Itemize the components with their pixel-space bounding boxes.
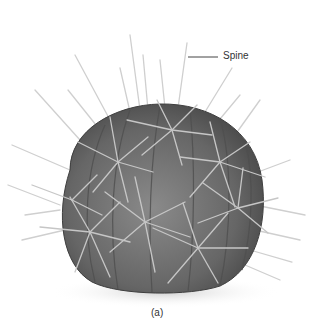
cactus-illustration [0, 0, 320, 325]
figure-caption: (a) [151, 307, 163, 318]
spine-label: Spine [223, 50, 249, 61]
cactus-body [62, 104, 263, 293]
cactus-figure: Spine (a) [0, 0, 320, 325]
